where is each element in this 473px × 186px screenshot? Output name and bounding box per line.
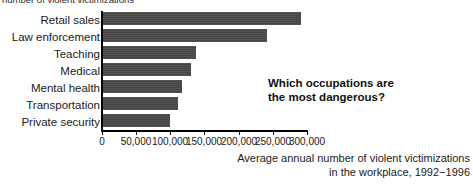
- category-label-medical: Medical: [2, 65, 100, 78]
- category-label-retail-sales: Retail sales: [2, 14, 100, 27]
- tick-mark-150000: [204, 131, 205, 135]
- tick-label-300000: 300,000: [279, 136, 335, 148]
- tick-mark-0: [102, 131, 103, 135]
- bar-chart-figure: number of violent victimizations Retail …: [0, 0, 473, 186]
- category-label-law-enforcement: Law enforcement: [2, 31, 100, 44]
- tick-mark-250000: [273, 131, 274, 135]
- value-axis-title: Average annual number of violent victimi…: [170, 151, 470, 179]
- axis-title-line-2: in the workplace, 1992−1996: [170, 165, 470, 179]
- tick-mark-300000: [307, 131, 308, 135]
- category-label-transportation: Transportation: [2, 99, 100, 112]
- category-label-mental-health: Mental health: [2, 82, 100, 95]
- category-label-private-security: Private security: [2, 116, 100, 129]
- category-label-teaching: Teaching: [2, 48, 100, 61]
- category-axis-labels: Retail sales Law enforcement Teaching Me…: [0, 0, 100, 186]
- bar-transportation: [103, 97, 178, 110]
- tick-mark-50000: [136, 131, 137, 135]
- axis-title-line-1: Average annual number of violent victimi…: [170, 151, 470, 165]
- bar-mental-health: [103, 80, 182, 93]
- bar-private-security: [103, 114, 170, 127]
- bar-retail-sales: [103, 12, 301, 25]
- bar-teaching: [103, 46, 196, 59]
- bar-law-enforcement: [103, 29, 267, 42]
- tick-mark-200000: [239, 131, 240, 135]
- callout-line-2: the most dangerous?: [268, 90, 458, 104]
- bar-medical: [103, 63, 191, 76]
- tick-mark-100000: [170, 131, 171, 135]
- callout-annotation: Which occupations are the most dangerous…: [268, 76, 458, 104]
- callout-line-1: Which occupations are: [268, 76, 458, 90]
